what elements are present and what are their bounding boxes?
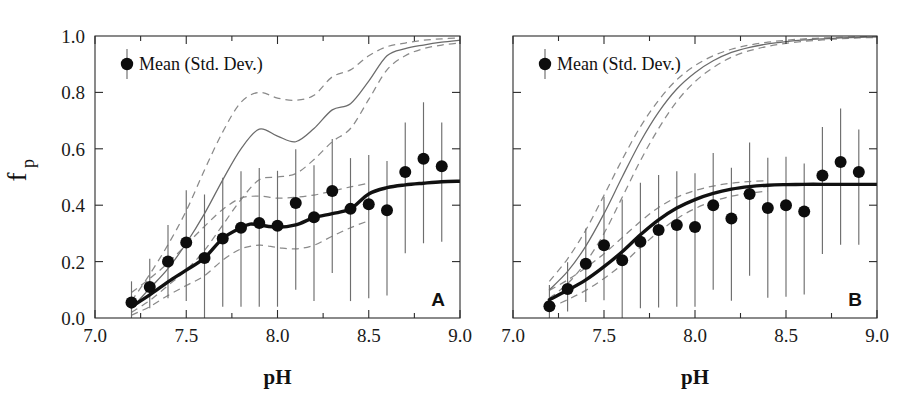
panel-b: 7.07.58.08.59.0pHBMean (Std. Dev.) xyxy=(501,36,889,389)
datapoint-group xyxy=(543,156,864,312)
data-point xyxy=(543,300,555,312)
data-point xyxy=(126,296,138,308)
data-point xyxy=(363,198,375,210)
data-point xyxy=(634,236,646,248)
legend-marker-icon xyxy=(539,58,551,70)
x-tick-label: 7.0 xyxy=(501,325,525,346)
y-axis-title-subscript: p xyxy=(18,159,38,168)
data-point xyxy=(381,204,393,216)
data-point xyxy=(653,224,665,236)
data-point xyxy=(199,252,211,264)
data-point xyxy=(853,166,865,178)
plot-area-a xyxy=(126,38,461,318)
legend-label: Mean (Std. Dev.) xyxy=(557,54,681,75)
obs-band-lower xyxy=(132,221,369,315)
y-tick-label: 1.0 xyxy=(61,26,85,47)
obs-band-upper xyxy=(132,183,369,292)
data-point xyxy=(326,185,338,197)
panel-a: 7.07.58.08.59.00.00.20.40.60.81.0pHAMean… xyxy=(61,26,472,389)
data-point xyxy=(290,197,302,209)
data-point xyxy=(162,256,174,268)
x-tick-label: 8.0 xyxy=(266,325,290,346)
data-point xyxy=(235,222,247,234)
figure-svg: 7.07.58.08.59.00.00.20.40.60.81.0pHAMean… xyxy=(0,0,914,414)
y-axis-title-symbol: f xyxy=(2,173,32,182)
legend: Mean (Std. Dev.) xyxy=(539,49,681,79)
x-tick-label: 8.5 xyxy=(357,325,381,346)
data-point xyxy=(272,220,284,232)
x-tick-label: 8.0 xyxy=(683,325,707,346)
x-tick-label: 7.0 xyxy=(83,325,107,346)
legend-marker-icon xyxy=(121,58,133,70)
data-point xyxy=(616,254,628,266)
y-tick-label: 0.6 xyxy=(61,139,85,160)
data-point xyxy=(308,211,320,223)
data-point xyxy=(217,232,229,244)
data-point xyxy=(598,239,610,251)
x-axis-title: pH xyxy=(263,365,291,389)
data-point xyxy=(762,202,774,214)
errorbar-group xyxy=(549,108,858,318)
y-tick-label: 0.0 xyxy=(61,308,85,329)
legend-label: Mean (Std. Dev.) xyxy=(139,54,263,75)
errorbar-group xyxy=(132,102,442,318)
data-point xyxy=(835,156,847,168)
x-tick-label: 9.0 xyxy=(865,325,889,346)
data-point xyxy=(725,212,737,224)
data-point xyxy=(580,258,592,270)
data-point xyxy=(671,219,683,231)
figure-two-panel-ph-plot: 7.07.58.08.59.00.00.20.40.60.81.0pHAMean… xyxy=(0,0,914,414)
x-axis-title: pH xyxy=(681,365,709,389)
panel-letter-a: A xyxy=(431,289,445,310)
data-point xyxy=(744,188,756,200)
data-point xyxy=(816,170,828,182)
y-tick-label: 0.4 xyxy=(61,195,85,216)
data-point xyxy=(562,283,574,295)
x-tick-label: 7.5 xyxy=(592,325,616,346)
data-point xyxy=(798,205,810,217)
data-point xyxy=(707,199,719,211)
plot-area-b xyxy=(543,37,877,318)
y-axis-title: fp xyxy=(2,159,38,182)
x-tick-label: 7.5 xyxy=(174,325,198,346)
datapoint-group xyxy=(126,153,448,309)
data-point xyxy=(180,236,192,248)
data-point xyxy=(436,160,448,172)
legend: Mean (Std. Dev.) xyxy=(121,49,263,79)
panel-letter-b: B xyxy=(848,289,862,310)
data-point xyxy=(345,203,357,215)
x-tick-label: 8.5 xyxy=(774,325,798,346)
data-point xyxy=(689,221,701,233)
data-point xyxy=(780,199,792,211)
y-tick-label: 0.2 xyxy=(61,252,85,273)
data-point xyxy=(144,281,156,293)
x-tick-label: 9.0 xyxy=(448,325,472,346)
data-point xyxy=(399,166,411,178)
data-point xyxy=(253,217,265,229)
data-point xyxy=(418,153,430,165)
y-tick-label: 0.8 xyxy=(61,82,85,103)
